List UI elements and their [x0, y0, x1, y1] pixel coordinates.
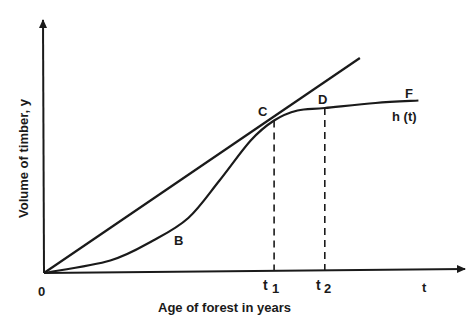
timber-growth-diagram: 0 t Age of forest in years Volume of tim… — [0, 0, 475, 328]
tick-t2: t 2 — [316, 277, 331, 296]
tick-t1-sub: 1 — [272, 281, 279, 296]
label-b: B — [174, 233, 183, 248]
growth-curve-h-t — [44, 101, 418, 274]
tick-t2-sub: 2 — [324, 281, 331, 296]
x-axis — [44, 269, 465, 273]
y-axis — [43, 20, 44, 273]
tick-t1: t 1 — [263, 277, 279, 296]
label-h-t: h (t) — [392, 109, 417, 124]
y-axis-title: Volume of timber, y — [16, 98, 31, 218]
label-d: D — [318, 92, 327, 107]
tick-t2-main: t — [316, 277, 321, 293]
x-axis-title: Age of forest in years — [158, 300, 291, 315]
x-axis-symbol: t — [422, 280, 427, 295]
label-f: F — [405, 86, 413, 101]
origin-label: 0 — [38, 284, 45, 299]
tangent-line — [44, 58, 360, 273]
tick-t1-main: t — [263, 277, 268, 293]
label-c: C — [258, 104, 268, 119]
